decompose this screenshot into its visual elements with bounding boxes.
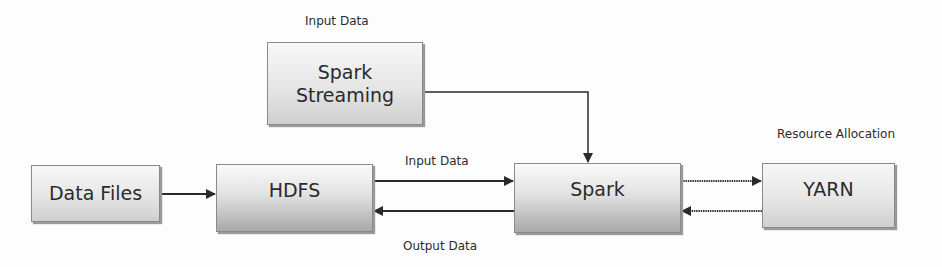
node-data-files: Data Files [31, 165, 160, 222]
node-data-files-label: Data Files [49, 182, 142, 205]
hdfs-to-spark-label: Input Data [405, 154, 469, 168]
node-spark-label: Spark [570, 178, 625, 201]
node-hdfs: HDFS [216, 164, 373, 232]
resource-allocation-label: Resource Allocation [777, 127, 895, 141]
diagram-canvas: Input Data Input Data Output Data Resour… [0, 0, 942, 267]
spark-to-hdfs-label: Output Data [403, 239, 477, 253]
arrow-streaming-to-spark [423, 92, 588, 162]
node-spark-streaming-line2: Streaming [296, 84, 394, 107]
node-spark-streaming-line1: Spark [318, 61, 373, 84]
streaming-input-label: Input Data [305, 14, 369, 28]
node-spark: Spark [514, 163, 681, 233]
node-yarn: YARN [762, 163, 895, 228]
node-yarn-label: YARN [803, 178, 854, 201]
node-hdfs-label: HDFS [269, 179, 321, 202]
node-spark-streaming: Spark Streaming [267, 42, 423, 125]
